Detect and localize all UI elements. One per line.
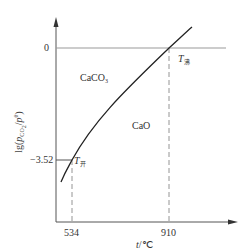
x-tick-910: 910 xyxy=(161,228,176,238)
x-tick-534: 534 xyxy=(64,228,79,238)
t-fei-point-label: T沸 xyxy=(178,54,190,65)
region-cao-label: CaO xyxy=(132,121,150,131)
y-axis-label: lg(pCO2/pθ) xyxy=(13,82,27,182)
region-caco3-label: CaCO3 xyxy=(80,73,108,84)
y-tick-minus-3-52: −3.52 xyxy=(30,155,53,165)
phase-diagram xyxy=(0,0,241,250)
y-axis-arrow-icon xyxy=(54,17,59,27)
x-axis-arrow-icon xyxy=(228,220,238,225)
t-kai-point-label: T开 xyxy=(74,156,86,167)
x-axis-label: t/℃ xyxy=(136,240,153,250)
y-tick-0: 0 xyxy=(44,43,49,53)
